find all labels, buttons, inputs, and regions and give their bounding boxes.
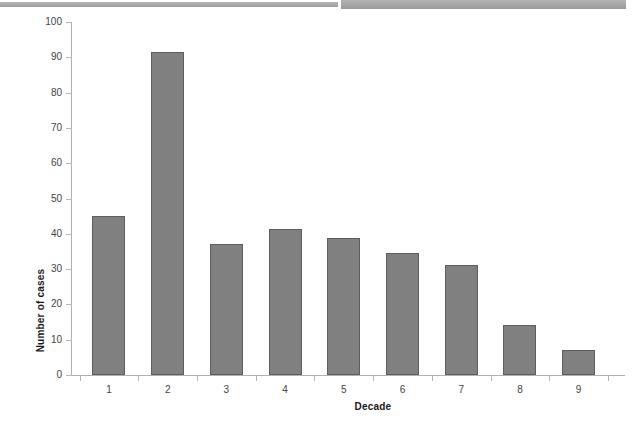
bar: [445, 265, 478, 375]
x-axis-title-text: Decade: [55, 401, 636, 412]
x-axis-tick-label: 8: [500, 384, 540, 396]
y-axis-tick-label-text: 90: [22, 52, 62, 62]
bar: [386, 253, 419, 375]
bar: [210, 244, 243, 375]
y-axis-title-text: Number of cases: [35, 246, 46, 376]
bar: [269, 229, 302, 375]
x-axis-tick-label: 9: [559, 384, 599, 396]
x-axis-tick: [491, 376, 492, 381]
bar: [562, 350, 595, 375]
y-axis-tick-label-text: 40: [22, 229, 62, 239]
y-axis-tick-label-text: 80: [22, 88, 62, 98]
x-axis-tick: [608, 376, 609, 381]
scan-band-left-icon: [0, 2, 338, 7]
x-axis-tick: [80, 376, 81, 381]
y-axis-tick-label: 80: [18, 88, 62, 98]
y-axis-tick: [66, 128, 72, 129]
x-axis-tick: [549, 376, 550, 381]
y-axis-tick-label: 90: [18, 52, 62, 62]
x-axis-tick-label: 3: [206, 384, 246, 396]
x-axis-line: [71, 375, 625, 376]
y-axis-tick-label: 100: [18, 17, 62, 27]
y-axis-tick-label-text: 50: [22, 194, 62, 204]
bar: [327, 238, 360, 375]
x-axis-tick: [197, 376, 198, 381]
y-axis-tick: [66, 22, 72, 23]
x-axis-tick-label: 7: [441, 384, 481, 396]
y-axis-tick: [66, 57, 72, 58]
y-axis-title: Number of cases: [14, 145, 28, 245]
y-axis-tick-label-text: 70: [22, 123, 62, 133]
x-axis-tick: [138, 376, 139, 381]
x-axis-tick: [432, 376, 433, 381]
scan-band-right-icon: [341, 0, 626, 9]
x-axis-tick-label: 1: [89, 384, 129, 396]
y-axis-tick: [66, 375, 72, 376]
x-axis-tick: [373, 376, 374, 381]
y-axis-tick: [66, 340, 72, 341]
y-axis-tick-label: 70: [18, 123, 62, 133]
bar: [151, 52, 184, 375]
x-axis-tick-label: 4: [265, 384, 305, 396]
x-axis-tick-label: 6: [383, 384, 423, 396]
x-axis-tick: [314, 376, 315, 381]
bar: [92, 216, 125, 375]
y-axis-tick-label-text: 60: [22, 158, 62, 168]
y-axis-tick: [66, 304, 72, 305]
y-axis-tick: [66, 234, 72, 235]
y-axis-tick: [66, 93, 72, 94]
bar: [503, 325, 536, 375]
y-axis-tick-label-text: 100: [22, 17, 62, 27]
y-axis-tick: [66, 163, 72, 164]
bar-chart: 0102030405060708090100 123456789 Number …: [0, 0, 636, 430]
y-axis-tick: [66, 269, 72, 270]
y-axis-tick: [66, 199, 72, 200]
x-axis-tick-label: 2: [148, 384, 188, 396]
x-axis-tick-label: 5: [324, 384, 364, 396]
x-axis-tick: [256, 376, 257, 381]
